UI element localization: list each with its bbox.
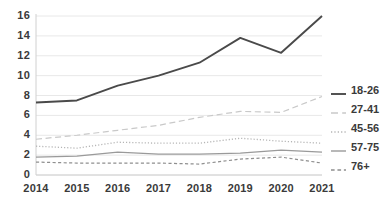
series-line-18-26 — [36, 16, 322, 102]
y-tick-label: 0 — [8, 168, 30, 180]
legend-item-57-75[interactable]: 57-75 — [331, 137, 392, 156]
line-solid-gray-swatch — [331, 142, 346, 152]
x-tick-label: 2018 — [179, 182, 219, 194]
y-tick-label: 2 — [8, 148, 30, 160]
y-tick-label: 10 — [8, 69, 30, 81]
x-tick-label: 2019 — [220, 182, 260, 194]
legend-label: 57-75 — [351, 141, 379, 153]
series-line-27-41 — [36, 96, 322, 139]
y-tick-label: 6 — [8, 108, 30, 120]
x-tick-label: 2020 — [261, 182, 301, 194]
x-tick-label: 2014 — [16, 182, 56, 194]
legend-label: 18-26 — [351, 84, 379, 96]
line-solid-dark-swatch — [331, 85, 346, 95]
x-tick-label: 2017 — [139, 182, 179, 194]
y-tick-label: 4 — [8, 128, 30, 140]
x-tick-label: 2021 — [302, 182, 342, 194]
line-dotted-swatch — [331, 123, 346, 133]
line-chart: 1614121086420 20142015201620172018201920… — [0, 0, 392, 209]
legend-label: 27-41 — [351, 103, 379, 115]
x-tick-label: 2016 — [98, 182, 138, 194]
line-dashed-swatch — [331, 161, 346, 171]
series-line-45-56 — [36, 138, 322, 148]
x-tick-label: 2015 — [57, 182, 97, 194]
line-longdash-swatch — [331, 104, 346, 114]
legend-item-27-41[interactable]: 27-41 — [331, 99, 392, 118]
legend-item-18-26[interactable]: 18-26 — [331, 80, 392, 99]
gridlines — [36, 16, 322, 175]
legend-item-45-56[interactable]: 45-56 — [331, 118, 392, 137]
series-line-76plus — [36, 157, 322, 164]
y-tick-label: 14 — [8, 29, 30, 41]
legend-item-76plus[interactable]: 76+ — [331, 156, 392, 175]
series-line-57-75 — [36, 150, 322, 157]
y-tick-label: 8 — [8, 89, 30, 101]
y-tick-label: 12 — [8, 49, 30, 61]
chart-legend: 18-2627-4145-5657-7576+ — [331, 80, 392, 175]
y-tick-label: 16 — [8, 9, 30, 21]
legend-label: 45-56 — [351, 122, 379, 134]
legend-label: 76+ — [351, 160, 370, 172]
